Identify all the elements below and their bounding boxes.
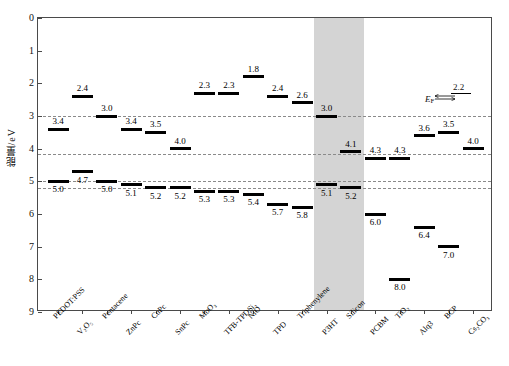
reference-line-4-15 [38, 154, 491, 155]
level-bar-upper-triphenylene [292, 101, 313, 104]
level-bar-lower-snpc [170, 186, 191, 189]
level-value-lower-cupc: 5.2 [143, 192, 169, 201]
y-tick-mark [38, 149, 42, 150]
highlight-band [314, 18, 364, 310]
level-bar-upper-tio2 [389, 157, 410, 160]
x-tick-mark [131, 310, 132, 314]
level-bar-upper-silicon [340, 150, 361, 153]
level-value-upper-bcp: 3.5 [436, 120, 462, 129]
level-bar-lower-alq3 [414, 226, 435, 229]
level-bar-lower-v2o5 [72, 170, 93, 173]
level-bar-upper-cs2co3 [463, 147, 484, 150]
y-tick-mark [38, 214, 42, 215]
level-bar-upper-snpc [170, 147, 191, 150]
level-bar-lower-tfb-tpdsi2 [218, 190, 239, 193]
y-tick-mark [38, 312, 42, 313]
fermi-value: 2.2 [453, 83, 464, 92]
level-value-lower-triphenylene: 5.8 [289, 211, 315, 220]
x-tick-mark [180, 310, 181, 314]
level-value-lower-bcp: 7.0 [436, 251, 462, 260]
level-bar-upper-pentacene [96, 115, 117, 118]
level-value-lower-pedot-pss: 5.0 [45, 185, 71, 194]
level-bar-upper-nio [243, 75, 264, 78]
level-bar-lower-pcbm [365, 213, 386, 216]
y-tick-mark [38, 181, 42, 182]
level-value-lower-tio2: 8.0 [387, 283, 413, 292]
level-bar-lower-pentacene [96, 180, 117, 183]
level-value-upper-nio: 1.8 [240, 65, 266, 74]
level-bar-upper-znpc [121, 128, 142, 131]
level-bar-upper-pedot-pss [48, 128, 69, 131]
level-value-upper-tfb-tpdsi2: 2.3 [216, 81, 242, 90]
level-bar-upper-v2o5 [72, 95, 93, 98]
level-value-lower-v2o5: 4.7 [69, 176, 95, 185]
x-tick-label-cs2co3: Cs₂CO₃ [467, 313, 490, 336]
level-value-lower-tpd: 5.7 [265, 208, 291, 217]
level-value-upper-triphenylene: 2.6 [289, 91, 315, 100]
y-tick-label: 2 [29, 78, 34, 88]
level-value-upper-pedot-pss: 3.4 [45, 117, 71, 126]
y-tick-label: 6 [29, 209, 34, 219]
y-tick-label: 7 [29, 242, 34, 252]
level-bar-upper-moo3 [194, 92, 215, 95]
x-tick-label-v2o5: V₂O₅ [76, 319, 94, 337]
x-tick-mark [473, 310, 474, 314]
level-bar-lower-silicon [340, 186, 361, 189]
level-bar-upper-bcp [438, 131, 459, 134]
level-value-upper-p3ht: 3.0 [314, 104, 340, 113]
y-tick-mark [38, 247, 42, 248]
x-tick-label-pcbm: PCBM [369, 315, 390, 336]
level-value-upper-tio2: 4.3 [387, 146, 413, 155]
plot-area: 0123456789 3.45.02.44.73.05.03.45.13.55.… [37, 17, 492, 311]
level-value-upper-alq3: 3.6 [411, 124, 437, 133]
level-bar-lower-triphenylene [292, 206, 313, 209]
level-value-upper-v2o5: 2.4 [69, 84, 95, 93]
fermi-arrow-icon [434, 94, 456, 103]
y-axis-label: 能量/eV [4, 128, 19, 167]
level-value-upper-pentacene: 3.0 [94, 104, 120, 113]
level-value-lower-p3ht: 5.1 [314, 189, 340, 198]
level-bar-lower-znpc [121, 183, 142, 186]
x-tick-mark [278, 310, 279, 314]
y-tick-mark [38, 116, 42, 117]
level-bar-upper-tfb-tpdsi2 [218, 92, 239, 95]
x-tick-label-alq3: Alq3 [418, 320, 435, 337]
fermi-level-annotation: EF [425, 94, 456, 106]
y-tick-mark [38, 279, 42, 280]
level-bar-upper-tpd [267, 95, 288, 98]
level-value-lower-znpc: 5.1 [118, 189, 144, 198]
level-value-lower-alq3: 6.4 [411, 231, 437, 240]
level-bar-lower-cupc [145, 186, 166, 189]
x-tick-label-snpc: SnPc [174, 319, 191, 336]
level-value-upper-pcbm: 4.3 [362, 146, 388, 155]
level-value-lower-silicon: 5.2 [338, 192, 364, 201]
level-value-upper-tpd: 2.4 [265, 84, 291, 93]
level-value-lower-nio: 5.4 [240, 198, 266, 207]
y-tick-mark [38, 51, 42, 52]
y-tick-label: 1 [29, 46, 34, 56]
level-value-lower-snpc: 5.2 [167, 192, 193, 201]
y-tick-label: 9 [29, 307, 34, 317]
level-bar-lower-moo3 [194, 190, 215, 193]
level-bar-lower-tio2 [389, 278, 410, 281]
y-tick-label: 3 [29, 111, 34, 121]
x-tick-label-znpc: ZnPc [125, 319, 143, 337]
level-value-lower-moo3: 5.3 [191, 195, 217, 204]
level-value-lower-tfb-tpdsi2: 5.3 [216, 195, 242, 204]
fermi-value-underline [451, 93, 471, 94]
level-bar-upper-cupc [145, 131, 166, 134]
level-bar-upper-p3ht [316, 115, 337, 118]
level-value-lower-pcbm: 6.0 [362, 218, 388, 227]
level-value-upper-cs2co3: 4.0 [460, 137, 486, 146]
level-value-upper-cupc: 3.5 [143, 120, 169, 129]
x-tick-mark [375, 310, 376, 314]
level-value-lower-pentacene: 5.0 [94, 185, 120, 194]
x-tick-mark [424, 310, 425, 314]
x-tick-mark [82, 310, 83, 314]
y-tick-mark [38, 18, 42, 19]
y-tick-label: 8 [29, 274, 34, 284]
level-bar-upper-pcbm [365, 157, 386, 160]
level-bar-lower-bcp [438, 245, 459, 248]
level-bar-lower-nio [243, 193, 264, 196]
x-tick-mark [229, 310, 230, 314]
